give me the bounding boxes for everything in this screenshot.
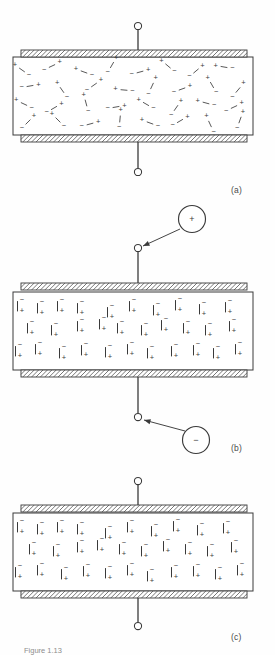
positive-charge: + (38, 349, 43, 358)
positive-charge: + (13, 60, 18, 69)
negative-charge: − (146, 89, 151, 98)
negative-charge: − (234, 536, 239, 545)
positive-charge: + (54, 330, 59, 339)
positive-charge: + (234, 547, 239, 556)
negative-charge: − (174, 561, 179, 570)
bottom-plate-b (21, 370, 247, 377)
negative-charge: − (84, 339, 89, 348)
positive-charge: + (130, 527, 135, 536)
negative-charge: − (62, 342, 67, 351)
capacitor-panel-b: −+−+−+−+−+−+−+−+−+−+−+−+−+−+−+−+−+−+−+−+… (13, 206, 253, 454)
bottom-plate-a (21, 135, 247, 142)
top-terminal-a[interactable] (134, 22, 141, 29)
negative-charge: − (100, 534, 105, 543)
positive-charge: + (204, 111, 209, 120)
negative-charge: − (164, 314, 169, 323)
negative-charge: − (170, 120, 175, 129)
top-plate-b (21, 283, 247, 290)
negative-charge: − (172, 87, 177, 96)
negative-charge: − (150, 342, 155, 351)
negative-charge: − (166, 535, 171, 544)
positive-charge: + (74, 64, 79, 73)
dipole-bond (120, 116, 121, 122)
negative-charge: − (176, 515, 181, 524)
positive-charge: + (108, 533, 113, 542)
negative-charge: − (40, 518, 45, 527)
positive-charge: + (114, 53, 119, 62)
negative-charge: − (208, 319, 213, 328)
positive-charge: + (132, 306, 137, 315)
negative-charge: − (86, 106, 91, 115)
positive-charge: + (150, 353, 155, 362)
positive-charge: + (159, 56, 164, 65)
negative-charge: − (80, 536, 85, 545)
positive-charge: + (122, 549, 127, 558)
positive-charge: + (156, 310, 161, 319)
negative-charge: − (156, 299, 161, 308)
panel-label-b: (b) (231, 443, 242, 453)
positive-charge: + (218, 574, 223, 583)
negative-charge: − (32, 538, 37, 547)
charge-arrow-head (144, 419, 151, 424)
positive-charge: + (130, 349, 135, 358)
negative-charge: − (144, 540, 149, 549)
negative-charge: − (174, 340, 179, 349)
negative-charge: − (27, 70, 32, 79)
positive-charge: + (200, 61, 205, 70)
negative-charge: − (240, 559, 245, 568)
bottom-terminal-c[interactable] (134, 622, 141, 629)
positive-charge: + (196, 350, 201, 359)
figure-caption: Figure 1.13 (24, 646, 264, 655)
positive-charge: + (32, 549, 37, 558)
negative-charge: − (150, 565, 155, 574)
negative-charge: − (132, 295, 137, 304)
bottom-terminal-b[interactable] (134, 413, 141, 420)
positive-charge: + (60, 527, 65, 536)
positive-charge: + (200, 530, 205, 539)
positive-charge: + (60, 306, 65, 315)
negative-charge: − (130, 516, 135, 525)
negative-charge: − (40, 297, 45, 306)
negative-charge: − (144, 319, 149, 328)
negative-charge: − (172, 66, 177, 75)
negative-charge: − (110, 301, 115, 310)
capacitor-panel-c: −+−+−+−+−+−+−+−+−+−+−+−+−+−+−+−+−+−+−+−+… (13, 477, 253, 629)
top-plate-c (21, 505, 247, 512)
negative-charge: − (38, 338, 43, 347)
positive-charge: + (96, 117, 101, 126)
positive-charge: + (241, 78, 246, 87)
top-terminal-b[interactable] (134, 244, 141, 251)
positive-charge: + (188, 549, 193, 558)
external-charge-positive: + (143, 206, 206, 247)
positive-charge: + (50, 109, 55, 118)
negative-charge: − (86, 560, 91, 569)
positive-charge: + (108, 352, 113, 361)
negative-charge: − (18, 340, 23, 349)
positive-charge: + (110, 312, 115, 321)
positive-charge: + (55, 78, 60, 87)
negative-charge: − (187, 71, 192, 80)
negative-charge: − (20, 295, 25, 304)
top-terminal-c[interactable] (134, 477, 141, 484)
positive-charge: + (174, 351, 179, 360)
positive-charge: + (40, 570, 45, 579)
negative-charge: − (80, 518, 85, 527)
positive-charge: + (164, 325, 169, 334)
positive-charge: + (20, 527, 25, 536)
negative-charge: − (230, 63, 235, 72)
top-plate-a (21, 50, 247, 57)
negative-charge: − (65, 92, 70, 101)
negative-charge: − (108, 562, 113, 571)
positive-charge: + (150, 576, 155, 585)
positive-charge: + (14, 95, 19, 104)
positive-charge: + (62, 353, 67, 362)
positive-charge: + (18, 351, 23, 360)
negative-charge: − (226, 517, 231, 526)
negative-charge: − (80, 121, 85, 130)
negative-charge: − (102, 313, 107, 322)
negative-charge: − (196, 339, 201, 348)
bottom-terminal-a[interactable] (134, 168, 141, 175)
positive-charge: + (30, 328, 35, 337)
negative-charge: − (42, 65, 47, 74)
